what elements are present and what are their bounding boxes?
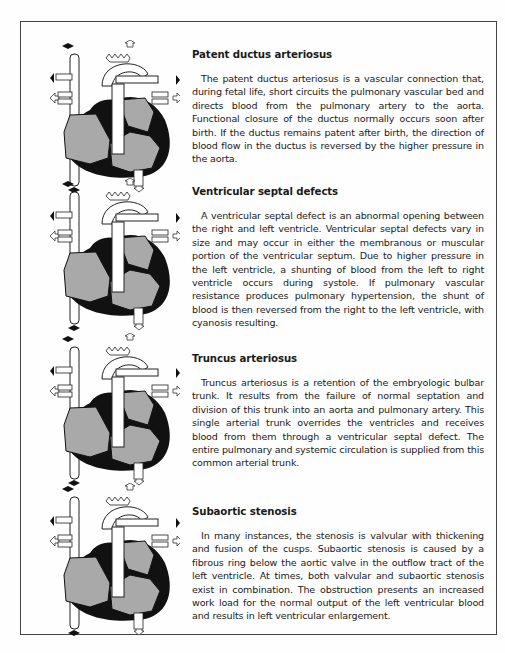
- section-title: Ventricular septal defects: [192, 186, 484, 197]
- heart-diagram-icon: [30, 40, 180, 195]
- section-title: Subaortic stenosis: [192, 506, 484, 517]
- section-body: In many instances, the stenosis is valvu…: [192, 529, 484, 623]
- section-body: The patent ductus arteriosus is a vascul…: [192, 72, 484, 166]
- section-title: Patent ductus arteriosus: [192, 49, 484, 60]
- heart-diagram-icon: [30, 333, 180, 488]
- heart-diagram-icon: [30, 483, 180, 638]
- section-body: Truncus arteriosus is a retention of the…: [192, 376, 484, 470]
- section-title: Truncus arteriosus: [192, 353, 484, 364]
- section-body: A ventricular septal defect is an abnorm…: [192, 209, 484, 330]
- heart-diagram-icon: [30, 178, 180, 333]
